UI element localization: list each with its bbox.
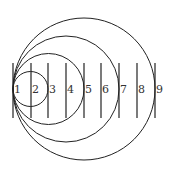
line-label-6: 6 bbox=[102, 83, 109, 96]
line-labels-group: 123456789 bbox=[14, 83, 163, 96]
line-label-2: 2 bbox=[32, 83, 39, 96]
line-label-9: 9 bbox=[156, 83, 163, 96]
line-label-4: 4 bbox=[67, 83, 74, 96]
line-label-3: 3 bbox=[49, 83, 56, 96]
line-label-5: 5 bbox=[85, 83, 92, 96]
line-label-8: 8 bbox=[138, 83, 145, 96]
line-label-1: 1 bbox=[14, 83, 21, 96]
line-label-7: 7 bbox=[120, 83, 127, 96]
nested-circles-diagram: 123456789 bbox=[0, 0, 174, 176]
